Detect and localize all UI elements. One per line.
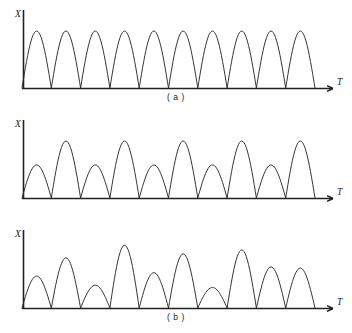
panel-c: X T ( c ) <box>0 220 352 331</box>
panel-c-plot: X T <box>0 220 352 331</box>
panel-c-x-axis-label: T <box>337 297 343 307</box>
panel-b: X T ( b ) <box>0 110 352 221</box>
panel-a-waveform <box>22 31 315 88</box>
panel-c-y-axis-label: X <box>14 229 22 239</box>
waveform-figure: X T ( a ) X T ( b ) X T ( c ) <box>0 0 352 333</box>
panel-a: X T ( a ) <box>0 0 352 111</box>
panel-b-waveform <box>22 141 315 198</box>
panel-c-waveform <box>22 245 315 308</box>
panel-a-x-axis-label: T <box>337 77 343 87</box>
panel-a-caption: ( a ) <box>0 92 352 102</box>
panel-a-y-axis-label: X <box>14 9 22 19</box>
panel-b-y-axis-label: X <box>14 119 22 129</box>
panel-b-plot: X T <box>0 110 352 221</box>
panel-b-x-axis-label: T <box>337 187 343 197</box>
